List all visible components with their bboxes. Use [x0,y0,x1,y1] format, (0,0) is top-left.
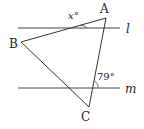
vertex-c-label: C [81,110,90,124]
line-l-label: l [126,22,130,36]
triangle-abc [21,18,106,107]
angle-x-label: x° [68,10,79,21]
angle-79-label: 79° [97,71,115,82]
line-m-label: m [125,82,136,96]
angle-79-arc [94,81,98,88]
vertex-b-label: B [9,37,18,51]
vertex-a-label: A [99,2,109,16]
geometry-diagram: A B C l m x° 79° [0,0,144,129]
